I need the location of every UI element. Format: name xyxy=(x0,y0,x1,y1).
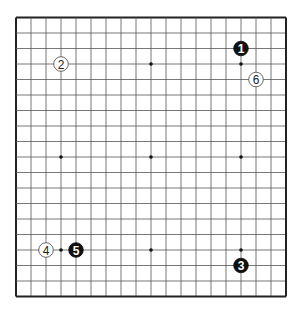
star-point xyxy=(149,62,153,66)
star-point xyxy=(149,155,153,159)
move-number: 4 xyxy=(43,244,50,258)
go-board: 123456 xyxy=(0,0,302,311)
move-number: 1 xyxy=(238,42,245,56)
move-number: 3 xyxy=(238,259,245,273)
star-point xyxy=(59,248,63,252)
move-number: 5 xyxy=(73,244,80,258)
white-stone: 6 xyxy=(249,72,264,87)
black-stone: 5 xyxy=(69,243,84,258)
star-point xyxy=(239,62,243,66)
move-number: 6 xyxy=(253,73,260,87)
star-point xyxy=(149,248,153,252)
star-point xyxy=(239,155,243,159)
white-stone: 4 xyxy=(39,243,54,258)
star-point xyxy=(239,248,243,252)
move-number: 2 xyxy=(58,58,65,72)
black-stone: 3 xyxy=(234,258,249,273)
star-point xyxy=(59,155,63,159)
white-stone: 2 xyxy=(54,57,69,72)
black-stone: 1 xyxy=(234,41,249,56)
